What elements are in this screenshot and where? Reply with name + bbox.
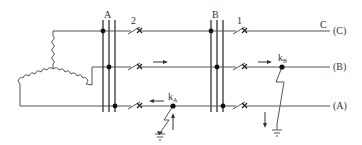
fault-ka-label: kA [168,92,177,103]
breaker-2-label: 2 [131,16,136,26]
fault-diagram: A B 2 1 C (C) (B) (A) kA kB [0,0,362,145]
bus-a-label: A [104,10,111,20]
phase-c-label: C [320,20,327,30]
generator-wye-icon [18,31,115,106]
fault-kb-icon [272,67,284,136]
fault-ka-icon [155,106,173,140]
line-c-end-label: (C) [333,26,346,36]
line-b-end-label: (B) [333,62,346,72]
schematic-drawing [0,0,362,145]
line-a-end-label: (A) [333,101,347,111]
fault-kb-label: kB [278,53,287,64]
bus-b-label: B [212,10,219,20]
junction-dots [101,29,285,109]
breaker-icons [128,27,247,109]
breaker-1-label: 1 [237,16,242,26]
